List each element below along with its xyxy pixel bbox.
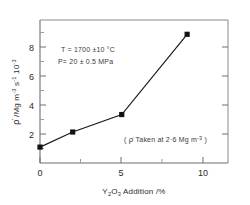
- y-axis-label: ρ̇ /Mg m-3 s-1 10-3: [11, 59, 21, 124]
- y-tick-label-4: 4: [29, 101, 34, 111]
- x-tick-labels: 0 5 10: [37, 168, 208, 178]
- rho-note-annotation: ( ρ̇ Taken at 2·6 Mg m-3 ): [124, 135, 207, 144]
- ylabel-unit: /Mg m: [12, 94, 21, 120]
- y-tick-label-2: 2: [29, 130, 34, 140]
- x-tick-label-0: 0: [37, 168, 42, 178]
- data-point: [37, 145, 42, 150]
- data-point: [70, 129, 75, 134]
- x-axis-label: Y2O3 Addition /%: [102, 187, 165, 197]
- data-point: [119, 112, 124, 117]
- xlabel-tail: Addition /%: [121, 187, 166, 196]
- annotation-pressure: P= 20 ± 0.5 MPa: [58, 58, 113, 65]
- y-axis-ticks: [40, 33, 46, 149]
- y-axis-ticks-right: [222, 47, 228, 134]
- ylabel-sup-3: -3: [11, 59, 17, 64]
- annotation-temperature: T = 1700 ±10 °C: [61, 46, 115, 53]
- chart-svg: 0 5 10 2 4 6 8 T = 1700 ±10 °C P= 20 ± 0…: [0, 0, 250, 205]
- note-close: ): [202, 136, 207, 144]
- chart-figure: 0 5 10 2 4 6 8 T = 1700 ±10 °C P= 20 ± 0…: [0, 0, 250, 205]
- y-tick-labels: 2 4 6 8: [29, 43, 34, 140]
- data-point: [185, 32, 190, 37]
- y-tick-label-8: 8: [29, 43, 34, 53]
- ylabel-ten: 10: [12, 64, 21, 76]
- annotation-rho-note: ( ρ̇ Taken at 2·6 Mg m-3 ): [124, 135, 207, 144]
- ylabel-s: s: [12, 82, 21, 89]
- conditions-annotation: T = 1700 ±10 °C P= 20 ± 0.5 MPa: [58, 46, 115, 65]
- y-axis-label-group: ρ̇ /Mg m-3 s-1 10-3: [11, 59, 21, 124]
- x-tick-label-10: 10: [198, 168, 208, 178]
- y-tick-label-6: 6: [29, 72, 34, 82]
- note-body: Taken at 2·6 Mg m: [133, 136, 197, 144]
- x-tick-label-5: 5: [118, 168, 123, 178]
- x-axis-ticks: [40, 157, 203, 163]
- x-axis-label-group: Y2O3 Addition /%: [102, 187, 165, 197]
